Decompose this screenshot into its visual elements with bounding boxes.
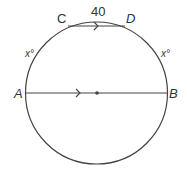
label-arc-cd: 40 [91, 5, 105, 18]
label-b: B [169, 87, 178, 100]
circle-figure [0, 0, 187, 176]
center-point [95, 91, 99, 95]
label-a: A [14, 87, 23, 100]
label-d: D [126, 12, 135, 25]
label-arc-ac: x° [25, 47, 34, 60]
label-c: C [57, 12, 66, 25]
diagram: A B C D 40 x° x° [0, 0, 187, 176]
label-arc-db: x° [161, 47, 170, 60]
